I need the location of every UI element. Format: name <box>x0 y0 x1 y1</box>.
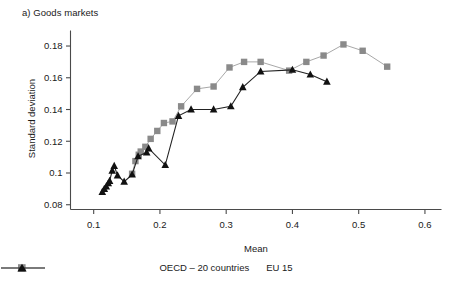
data-point-triangle <box>110 162 118 169</box>
data-point-triangle <box>106 177 114 184</box>
y-tick-label: 0.14 <box>44 104 63 115</box>
data-point-square <box>257 59 263 65</box>
x-tick-label: 0.6 <box>418 219 431 230</box>
legend-entry-eu15: EU 15 <box>266 262 292 273</box>
data-point-square <box>359 48 365 54</box>
data-point-square <box>169 118 175 124</box>
data-point-square <box>384 63 390 69</box>
chart-legend: OECD – 20 countries EU 15 <box>0 262 452 273</box>
data-point-square <box>320 52 326 58</box>
data-point-square <box>154 128 160 134</box>
plot-area: 0.080.10.120.140.160.180.10.20.30.40.50.… <box>0 0 452 291</box>
data-point-triangle <box>227 102 235 109</box>
data-point-square <box>147 136 153 142</box>
data-point-square <box>340 41 346 47</box>
x-tick-label: 0.4 <box>286 219 299 230</box>
y-tick-label: 0.12 <box>44 136 63 147</box>
data-point-square <box>241 59 247 65</box>
data-point-square <box>161 120 167 126</box>
data-point-triangle <box>187 105 195 112</box>
data-point-square <box>178 103 184 109</box>
data-point-square <box>226 64 232 70</box>
x-tick-label: 0.5 <box>352 219 365 230</box>
legend-entry-oecd: OECD – 20 countries <box>159 262 249 273</box>
data-point-triangle <box>239 83 247 90</box>
series-oecd <box>129 41 390 177</box>
x-tick-label: 0.1 <box>87 219 100 230</box>
chart-figure: a) Goods markets Standard deviation Mean… <box>0 0 452 291</box>
legend-label-eu15: EU 15 <box>266 262 292 273</box>
y-tick-label: 0.16 <box>44 72 63 83</box>
legend-key-triangle-icon <box>0 262 46 274</box>
data-point-square <box>210 83 216 89</box>
legend-label-oecd: OECD – 20 countries <box>159 262 249 273</box>
y-tick-label: 0.1 <box>49 167 62 178</box>
data-point-square <box>194 86 200 92</box>
data-point-square <box>303 59 309 65</box>
x-tick-label: 0.2 <box>153 219 166 230</box>
x-tick-label: 0.3 <box>220 219 233 230</box>
y-tick-label: 0.18 <box>44 40 63 51</box>
y-tick-label: 0.08 <box>44 199 63 210</box>
